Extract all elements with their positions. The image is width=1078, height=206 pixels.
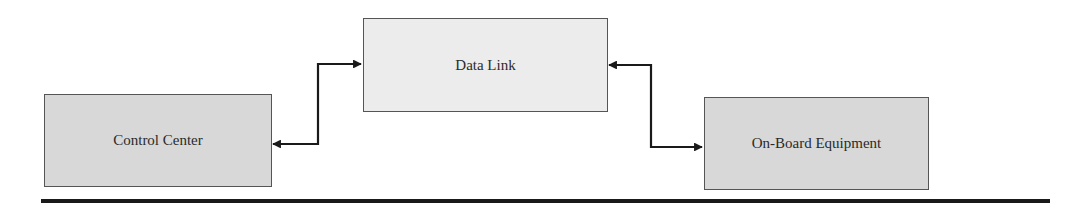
control-center-box: Control Center	[44, 94, 272, 187]
bottom-rule-divider	[41, 199, 1050, 203]
data-link-label: Data Link	[455, 57, 515, 74]
control-center-label: Control Center	[113, 132, 203, 149]
data-link-box: Data Link	[363, 18, 608, 112]
on-board-equipment-label: On-Board Equipment	[752, 135, 882, 152]
connector-data-link-on-board-equipment	[609, 65, 702, 147]
connector-control-center-data-link	[273, 64, 361, 144]
on-board-equipment-box: On-Board Equipment	[704, 97, 929, 190]
